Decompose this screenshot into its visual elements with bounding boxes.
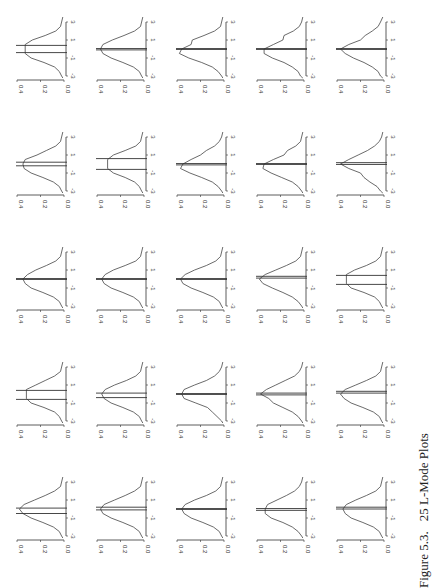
svg-text:3: 3 xyxy=(150,250,156,254)
density-curve xyxy=(102,247,143,308)
svg-text:0.0: 0.0 xyxy=(305,200,311,209)
svg-text:-3: -3 xyxy=(230,418,236,424)
svg-text:0.4: 0.4 xyxy=(258,85,264,94)
l-mode-plot: 0.00.20.4-3-113 xyxy=(328,230,410,330)
svg-text:3: 3 xyxy=(70,480,76,484)
density-curve xyxy=(108,132,143,193)
svg-text:1: 1 xyxy=(310,383,316,387)
svg-text:1: 1 xyxy=(390,153,396,157)
density-axis: 0.00.20.4 xyxy=(337,310,391,324)
svg-text:1: 1 xyxy=(150,498,156,502)
svg-text:-3: -3 xyxy=(70,418,76,424)
svg-text:0.4: 0.4 xyxy=(98,200,104,209)
svg-text:0.2: 0.2 xyxy=(362,315,368,324)
svg-text:0.4: 0.4 xyxy=(258,545,264,554)
figure-5-3: 0.00.20.4-3-1130.00.20.4-3-1130.00.20.4-… xyxy=(0,0,439,588)
density-curve xyxy=(182,477,223,538)
l-mode-plot: 0.00.20.4-3-113 xyxy=(248,345,330,445)
svg-text:0.4: 0.4 xyxy=(338,200,344,209)
svg-text:1: 1 xyxy=(310,153,316,157)
svg-text:-3: -3 xyxy=(310,73,316,79)
svg-text:-3: -3 xyxy=(150,73,156,79)
svg-text:0.0: 0.0 xyxy=(385,315,391,324)
x-axis: -3-113 xyxy=(226,20,236,79)
svg-text:1: 1 xyxy=(150,38,156,42)
x-axis: -3-113 xyxy=(226,135,236,194)
svg-text:0.0: 0.0 xyxy=(145,85,151,94)
svg-text:0.0: 0.0 xyxy=(65,545,71,554)
svg-text:0.2: 0.2 xyxy=(42,200,48,209)
svg-text:-3: -3 xyxy=(390,73,396,79)
figure-number: Figure 5.3. xyxy=(416,531,431,588)
l-mode-plot: 0.00.20.4-3-113 xyxy=(8,460,90,560)
svg-text:0.2: 0.2 xyxy=(122,315,128,324)
svg-text:3: 3 xyxy=(150,135,156,139)
svg-text:1: 1 xyxy=(70,38,76,42)
svg-text:3: 3 xyxy=(310,250,316,254)
l-mode-plot: 0.00.20.4-3-113 xyxy=(248,0,330,100)
svg-text:-1: -1 xyxy=(230,400,236,406)
svg-text:-3: -3 xyxy=(70,533,76,539)
l-mode-plot: 0.00.20.4-3-113 xyxy=(8,115,90,215)
svg-text:-1: -1 xyxy=(150,400,156,406)
svg-text:-3: -3 xyxy=(390,533,396,539)
svg-text:0.0: 0.0 xyxy=(145,315,151,324)
x-axis: -3-113 xyxy=(66,250,76,309)
svg-text:-1: -1 xyxy=(390,55,396,61)
interval-lines xyxy=(96,159,147,170)
svg-text:3: 3 xyxy=(310,365,316,369)
density-axis: 0.00.20.4 xyxy=(337,425,391,439)
interval-lines xyxy=(256,509,307,511)
density-axis: 0.00.20.4 xyxy=(257,195,311,209)
svg-text:0.4: 0.4 xyxy=(18,430,24,439)
density-curve xyxy=(181,247,223,308)
svg-text:0.0: 0.0 xyxy=(305,315,311,324)
density-curve xyxy=(264,17,303,78)
density-axis: 0.00.20.4 xyxy=(97,425,151,439)
l-mode-plot: 0.00.20.4-3-113 xyxy=(248,115,330,215)
density-curve xyxy=(25,17,63,78)
density-axis: 0.00.20.4 xyxy=(257,540,311,554)
svg-text:0.0: 0.0 xyxy=(145,200,151,209)
svg-text:3: 3 xyxy=(390,20,396,24)
density-axis: 0.00.20.4 xyxy=(97,310,151,324)
svg-text:3: 3 xyxy=(70,365,76,369)
l-mode-plot: 0.00.20.4-3-113 xyxy=(88,115,170,215)
svg-text:0.0: 0.0 xyxy=(305,85,311,94)
svg-text:1: 1 xyxy=(70,498,76,502)
svg-text:3: 3 xyxy=(70,20,76,24)
svg-text:-3: -3 xyxy=(150,188,156,194)
svg-text:0.0: 0.0 xyxy=(145,545,151,554)
svg-text:-1: -1 xyxy=(150,515,156,521)
density-axis: 0.00.20.4 xyxy=(337,540,391,554)
interval-lines xyxy=(176,509,227,510)
svg-text:-1: -1 xyxy=(70,285,76,291)
interval-lines xyxy=(16,508,67,513)
svg-text:-1: -1 xyxy=(390,400,396,406)
svg-text:0.4: 0.4 xyxy=(178,200,184,209)
x-axis: -3-113 xyxy=(146,365,156,424)
svg-text:-3: -3 xyxy=(230,73,236,79)
svg-text:0.0: 0.0 xyxy=(305,545,311,554)
svg-text:0.4: 0.4 xyxy=(338,545,344,554)
svg-text:0.4: 0.4 xyxy=(258,200,264,209)
density-axis: 0.00.20.4 xyxy=(97,540,151,554)
svg-text:0.0: 0.0 xyxy=(225,200,231,209)
svg-text:0.4: 0.4 xyxy=(98,85,104,94)
l-mode-plot: 0.00.20.4-3-113 xyxy=(248,230,330,330)
svg-text:-3: -3 xyxy=(390,303,396,309)
x-axis: -3-113 xyxy=(66,365,76,424)
svg-text:0.4: 0.4 xyxy=(258,430,264,439)
svg-text:0.4: 0.4 xyxy=(98,315,104,324)
x-axis: -3-113 xyxy=(386,250,396,309)
density-axis: 0.00.20.4 xyxy=(177,425,231,439)
l-mode-plot: 0.00.20.4-3-113 xyxy=(168,115,250,215)
density-curve xyxy=(341,362,383,423)
svg-text:1: 1 xyxy=(310,268,316,272)
svg-text:1: 1 xyxy=(230,383,236,387)
svg-text:-3: -3 xyxy=(150,418,156,424)
x-axis: -3-113 xyxy=(386,480,396,539)
interval-lines xyxy=(256,393,307,395)
interval-lines xyxy=(176,164,227,165)
svg-text:-1: -1 xyxy=(70,170,76,176)
